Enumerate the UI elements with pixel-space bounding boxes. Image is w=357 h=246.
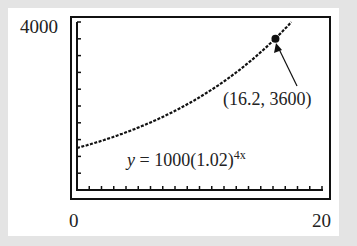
exponential-curve — [77, 22, 291, 148]
annotation-arrow — [278, 47, 297, 86]
x-max-label: 20 — [312, 211, 331, 230]
point-annotation: (16.2, 3600) — [223, 90, 312, 108]
y-max-label: 4000 — [20, 17, 58, 36]
equation-text: = 1000(1.02) — [135, 150, 234, 170]
equation-label: y = 1000(1.02)4x — [127, 148, 246, 171]
highlight-point — [271, 35, 279, 43]
equation-exponent: 4x — [234, 148, 246, 162]
x-min-label: 0 — [69, 211, 79, 230]
